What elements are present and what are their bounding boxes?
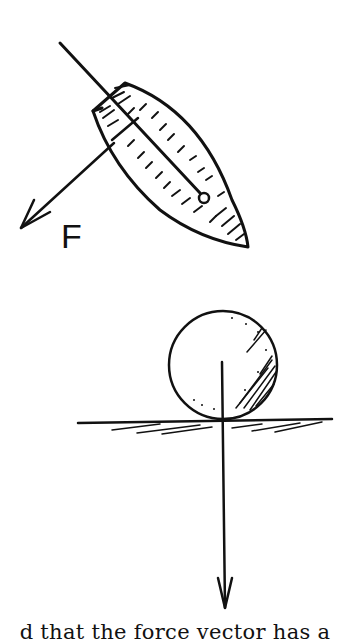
boat-figure <box>21 43 248 247</box>
gravity-vector <box>222 362 225 608</box>
ball-dots <box>193 317 267 410</box>
ball-figure <box>78 311 332 608</box>
force-label: F <box>61 217 82 255</box>
boat-hull <box>93 83 248 247</box>
diagram-canvas: F <box>0 0 350 644</box>
ground-line <box>78 419 332 423</box>
ground-hatching <box>112 422 322 434</box>
force-vector-f <box>21 143 114 228</box>
rope-line <box>60 43 200 193</box>
caption-text: d that the force vector has a <box>0 620 350 644</box>
rope-ring <box>199 193 209 203</box>
